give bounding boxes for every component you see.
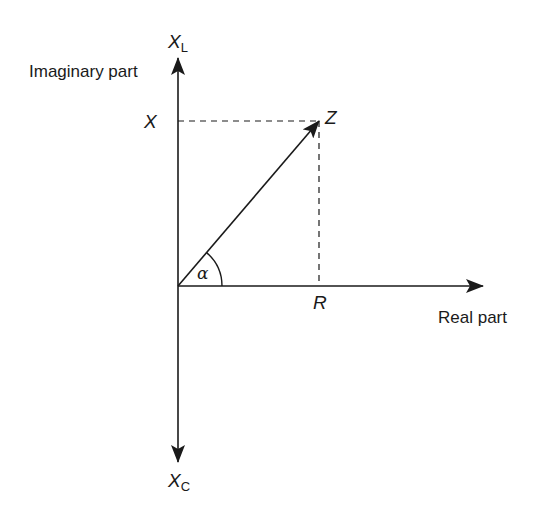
angle-arc <box>207 253 222 286</box>
imaginary-part-label: Imaginary part <box>29 62 138 81</box>
alpha-angle-label: α <box>197 263 209 283</box>
x-reactance-label: X <box>143 111 158 132</box>
z-phasor-label: Z <box>324 107 338 128</box>
r-resistance-label: R <box>313 292 327 313</box>
impedance-phasor-arrow <box>178 121 319 286</box>
xl-axis-label: XL <box>167 31 188 55</box>
real-part-label: Real part <box>438 308 507 327</box>
impedance-diagram: XL Imaginary part X Z α R Real part XC <box>0 0 549 517</box>
xc-axis-label: XC <box>167 470 190 494</box>
